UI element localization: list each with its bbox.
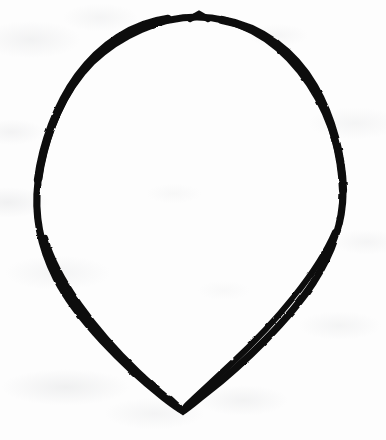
leaf-outline-drawing — [0, 0, 386, 440]
leaf-stroke-weight-lower-right — [186, 232, 335, 406]
leaf-stroke-weight-upper-left — [38, 19, 168, 180]
drawing-canvas — [0, 0, 386, 440]
ink-group — [37, 14, 343, 411]
leaf-stroke-weight-upper-right — [222, 20, 343, 190]
leaf-stroke-weight-lower-left — [45, 238, 181, 410]
